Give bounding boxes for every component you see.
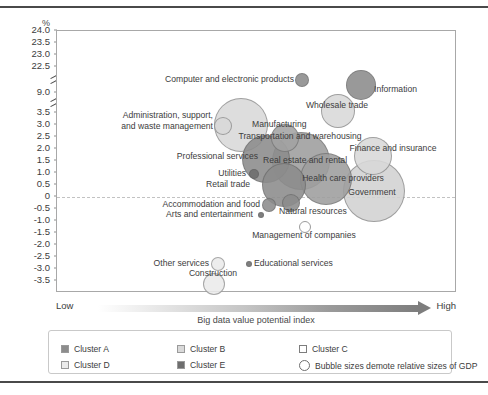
legend-swatch-icon — [177, 345, 185, 353]
legend: Cluster ACluster BCluster CCluster DClus… — [48, 330, 452, 374]
legend-item[interactable]: Cluster D — [61, 360, 110, 370]
y-axis-tick-label: 23.0 — [32, 49, 51, 59]
bubble-label: Real estate and rental — [263, 155, 347, 166]
legend-swatch-icon — [61, 345, 69, 353]
top-rule — [0, 6, 488, 8]
legend-swatch-icon — [177, 361, 185, 369]
y-axis-tick-label: 3.0 — [37, 119, 50, 129]
y-axis-tick-label: -1.5 — [34, 227, 50, 237]
y-axis-tick-label: 24.0 — [32, 25, 51, 35]
y-axis-tick-label: 2.0 — [37, 143, 50, 153]
bubble-data-point[interactable] — [346, 70, 376, 100]
bubble-label: Computer and electronic products — [165, 74, 294, 85]
y-axis-tick-label: -3.0 — [34, 263, 50, 273]
bubble-data-point[interactable] — [258, 212, 264, 218]
bubble-data-point[interactable] — [295, 73, 309, 87]
bubble-label: Information — [374, 84, 417, 95]
y-axis-tick-label: 1.0 — [37, 167, 50, 177]
bubble-label: Management of companies — [252, 230, 356, 241]
x-axis: Low High Big data value potential index — [56, 294, 456, 324]
y-axis-tick-label: 2.5 — [37, 131, 50, 141]
x-axis-low-label: Low — [56, 300, 73, 311]
legend-item[interactable]: Cluster B — [177, 344, 225, 354]
bubble-label: Finance and insurance — [350, 143, 437, 154]
bubble-label: Construction — [189, 268, 237, 279]
y-axis-tick-label: 1.5 — [37, 155, 50, 165]
legend-item-label: Cluster D — [74, 360, 110, 370]
legend-item[interactable]: Cluster A — [61, 344, 109, 354]
legend-item[interactable]: Cluster E — [177, 360, 225, 370]
legend-bubble-size-icon — [299, 360, 310, 371]
bubble-label: Administration, support,and waste manage… — [121, 110, 213, 131]
y-axis-tick-label: 0 — [45, 191, 50, 201]
bubble-label: Transportation and warehousing — [239, 131, 362, 142]
bubble-label: Educational services — [254, 258, 333, 269]
bubble-label-line: Administration, support, — [121, 110, 213, 121]
bottom-rule — [0, 381, 488, 383]
bubble-label: Accommodation and food — [163, 199, 260, 210]
y-axis-tick-label: 9.0 — [37, 87, 50, 97]
y-axis-tick-label: 3.5 — [37, 107, 50, 117]
bubble-data-point[interactable] — [214, 117, 232, 135]
legend-item-label: Cluster C — [312, 344, 348, 354]
y-axis-tick-label: 22.5 — [32, 61, 51, 71]
bubble-label: Manufacturing — [252, 119, 306, 130]
y-axis-tick-label: -1.0 — [34, 215, 50, 225]
bubble-label: Government — [348, 187, 395, 198]
bubble-label-line: and waste management — [121, 120, 213, 131]
bubble-label: Health care providers — [302, 173, 384, 184]
x-axis-title: Big data value potential index — [56, 315, 456, 325]
y-axis: % 24.023.523.022.59.03.53.02.52.01.51.00… — [0, 18, 56, 298]
y-axis-tick-label: -0.5 — [34, 203, 50, 213]
legend-item-label: Cluster B — [190, 344, 225, 354]
legend-swatch-icon — [299, 345, 307, 353]
bubble-data-point[interactable] — [249, 169, 259, 179]
bubble-label: Natural resources — [279, 206, 347, 217]
x-axis-high-label: High — [436, 300, 456, 311]
bubble-data-point[interactable] — [246, 261, 252, 267]
bubble-label: Wholesale trade — [306, 100, 368, 111]
legend-item[interactable]: Bubble sizes demote relative sizes of GD… — [299, 360, 477, 371]
legend-swatch-icon — [61, 361, 69, 369]
y-axis-tick-label: -2.5 — [34, 251, 50, 261]
x-axis-arrow-head — [418, 301, 431, 315]
y-axis-tick-label: 0.5 — [37, 179, 50, 189]
legend-item[interactable]: Cluster C — [299, 344, 348, 354]
bubble-label: Utilities — [218, 168, 246, 179]
bubble-data-point[interactable] — [262, 198, 276, 212]
legend-item-label: Cluster A — [74, 344, 109, 354]
y-axis-tick-label: 23.5 — [32, 37, 51, 47]
legend-item-label: Bubble sizes demote relative sizes of GD… — [315, 361, 477, 371]
bubble-label: Arts and entertainment — [166, 209, 253, 220]
x-axis-gradient-arrow — [98, 305, 420, 312]
y-axis-tick-label: -3.5 — [34, 275, 50, 285]
y-axis-tick-label: -2.0 — [34, 239, 50, 249]
bubble-label: Retail trade — [206, 179, 250, 190]
bubble-label: Other services — [154, 258, 209, 269]
bubble-label: Professional services — [177, 151, 258, 162]
legend-item-label: Cluster E — [190, 360, 225, 370]
